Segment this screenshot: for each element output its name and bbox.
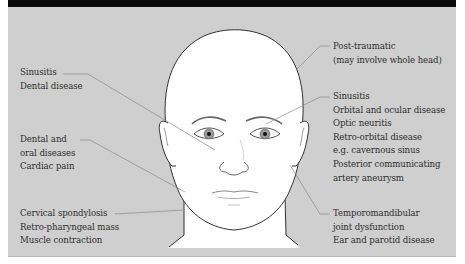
label-line: Dental disease	[20, 80, 83, 94]
label-line: oral diseases	[20, 147, 75, 161]
label-line: Temporomandibular	[333, 207, 435, 221]
label-line: Sinusitis	[333, 90, 445, 104]
label-line: Retro-orbital disease	[333, 131, 445, 145]
label-left-lower: Cervical spondylosis Retro-pharyngeal ma…	[20, 207, 119, 248]
label-line: Posterior communicating	[333, 158, 445, 172]
label-line: Post-traumatic	[333, 40, 442, 54]
head-outline	[165, 30, 303, 230]
label-line: joint dysfunction	[333, 221, 435, 235]
label-left-upper: Sinusitis Dental disease	[20, 66, 83, 93]
label-line: Ear and parotid disease	[333, 234, 435, 248]
label-line: Dental and	[20, 133, 75, 147]
label-line: Orbital and ocular disease	[333, 104, 445, 118]
label-line: Optic neuritis	[333, 117, 445, 131]
label-line: Sinusitis	[20, 66, 83, 80]
label-right-lower: Temporomandibular joint dysfunction Ear …	[333, 207, 435, 248]
label-line: (may involve whole head)	[333, 54, 442, 68]
label-line: Retro-pharyngeal mass	[20, 221, 119, 235]
label-line: e.g. cavernous sinus	[333, 144, 445, 158]
label-right-top: Post-traumatic (may involve whole head)	[333, 40, 442, 67]
label-left-middle: Dental and oral diseases Cardiac pain	[20, 133, 75, 174]
label-right-middle: Sinusitis Orbital and ocular disease Opt…	[333, 90, 445, 185]
label-line: Muscle contraction	[20, 234, 119, 248]
label-line: artery aneurysm	[333, 172, 445, 186]
label-line: Cardiac pain	[20, 160, 75, 174]
label-line: Cervical spondylosis	[20, 207, 119, 221]
